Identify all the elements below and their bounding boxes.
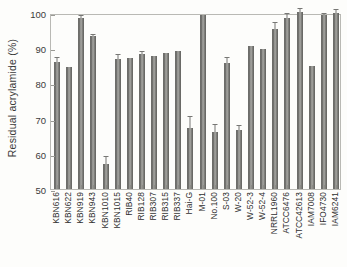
error-bar bbox=[226, 58, 227, 63]
error-bar-cap bbox=[333, 9, 338, 10]
x-label-slot: RIB337 bbox=[171, 192, 183, 267]
x-tick-label: NRRL1960 bbox=[269, 192, 279, 234]
error-bar bbox=[287, 14, 288, 19]
error-bar-cap bbox=[139, 51, 144, 52]
bar bbox=[163, 53, 169, 189]
x-tick-label: KBN943 bbox=[87, 192, 97, 224]
bar bbox=[175, 51, 181, 189]
x-tick-mark bbox=[312, 185, 313, 189]
y-tick-label: 100 bbox=[30, 9, 46, 20]
x-tick-mark bbox=[275, 185, 276, 189]
x-tick-mark bbox=[215, 185, 216, 189]
x-tick-mark bbox=[130, 185, 131, 189]
error-bar bbox=[117, 55, 118, 59]
y-axis-label: Residual acrylamide (%) bbox=[6, 39, 18, 157]
x-label-slot: No.100 bbox=[208, 192, 220, 267]
x-tick-mark bbox=[69, 185, 70, 189]
x-label-slot: ATCC42613 bbox=[293, 192, 305, 267]
bar-slot bbox=[306, 15, 318, 189]
bar bbox=[260, 49, 266, 189]
y-tick-label: 60 bbox=[35, 149, 46, 160]
error-bar-cap bbox=[285, 13, 290, 14]
bar bbox=[187, 128, 193, 189]
x-tick-label: KBN919 bbox=[75, 192, 85, 224]
bar-slot bbox=[294, 15, 306, 189]
x-label-slot: KBN1015 bbox=[111, 192, 123, 267]
error-bar-cap bbox=[297, 8, 302, 9]
x-tick-mark bbox=[106, 185, 107, 189]
error-bar-cap bbox=[115, 54, 120, 55]
x-tick-mark bbox=[263, 185, 264, 189]
bar bbox=[224, 63, 230, 189]
x-label-slot: KBN919 bbox=[74, 192, 86, 267]
x-tick-label: KBN622 bbox=[63, 192, 73, 224]
bar bbox=[297, 12, 303, 189]
x-tick-mark bbox=[93, 185, 94, 189]
x-label-slot: KBN616 bbox=[50, 192, 62, 267]
error-bar-cap bbox=[236, 125, 241, 126]
bar-chart-figure: Residual acrylamide (%) 5060708090100 KB… bbox=[0, 0, 347, 267]
y-tick-mark bbox=[51, 85, 55, 86]
x-tick-label: RIB337 bbox=[172, 192, 182, 221]
plot-area bbox=[50, 14, 341, 190]
x-label-slot: RIB128 bbox=[135, 192, 147, 267]
y-axis-label-container: Residual acrylamide (%) bbox=[0, 0, 24, 196]
x-tick-mark bbox=[287, 185, 288, 189]
error-bar bbox=[141, 52, 142, 54]
bar bbox=[284, 18, 290, 189]
error-bar-cap bbox=[212, 124, 217, 125]
y-tick-mark bbox=[51, 50, 55, 51]
x-tick-label: S-03 bbox=[221, 192, 231, 210]
x-tick-mark bbox=[251, 185, 252, 189]
bar-slot bbox=[184, 15, 196, 189]
bar bbox=[309, 66, 315, 189]
bar bbox=[151, 56, 157, 189]
bar bbox=[54, 62, 60, 189]
bar-slot bbox=[233, 15, 245, 189]
error-bar bbox=[105, 157, 106, 165]
x-label-slot: RIB315 bbox=[159, 192, 171, 267]
x-tick-mark bbox=[81, 185, 82, 189]
error-bar-cap bbox=[273, 22, 278, 23]
y-axis-tick-labels: 5060708090100 bbox=[24, 14, 48, 190]
x-label-slot: S-03 bbox=[220, 192, 232, 267]
bar bbox=[200, 15, 206, 189]
x-tick-mark bbox=[118, 185, 119, 189]
bar bbox=[127, 58, 133, 189]
x-tick-mark bbox=[324, 185, 325, 189]
x-tick-mark bbox=[336, 185, 337, 189]
error-bar bbox=[81, 16, 82, 18]
x-label-slot: W-52-4 bbox=[256, 192, 268, 267]
x-label-slot: KBN1010 bbox=[99, 192, 111, 267]
x-label-slot: NRRL1960 bbox=[268, 192, 280, 267]
y-tick-mark bbox=[51, 121, 55, 122]
bar-slot bbox=[245, 15, 257, 189]
x-tick-mark bbox=[154, 185, 155, 189]
bar bbox=[272, 29, 278, 189]
x-label-slot: IAM7008 bbox=[305, 192, 317, 267]
x-tick-label: ATCC42613 bbox=[294, 192, 304, 238]
x-tick-label: KBN1015 bbox=[112, 192, 122, 229]
x-tick-label: RIB315 bbox=[160, 192, 170, 221]
bar-slot bbox=[197, 15, 209, 189]
x-tick-label: W-52-4 bbox=[257, 192, 267, 220]
x-label-slot: W-20 bbox=[232, 192, 244, 267]
x-tick-mark bbox=[166, 185, 167, 189]
x-label-slot: Hai-G bbox=[183, 192, 195, 267]
error-bar bbox=[275, 23, 276, 29]
error-bar-cap bbox=[79, 15, 84, 16]
bar bbox=[333, 13, 339, 189]
y-tick-mark bbox=[51, 15, 55, 16]
bar-slot bbox=[318, 15, 330, 189]
error-bar-cap bbox=[321, 13, 326, 14]
bar-slot bbox=[51, 15, 63, 189]
bar bbox=[115, 59, 121, 189]
error-bar bbox=[299, 9, 300, 12]
x-tick-mark bbox=[57, 185, 58, 189]
x-tick-label: M-01 bbox=[197, 192, 207, 211]
y-tick-label: 70 bbox=[35, 114, 46, 125]
x-tick-label: KBN1010 bbox=[100, 192, 110, 229]
bar-slot bbox=[209, 15, 221, 189]
x-tick-mark bbox=[239, 185, 240, 189]
x-axis-tick-labels: KBN616KBN622KBN919KBN943KBN1010KBN1015RI… bbox=[50, 192, 341, 267]
